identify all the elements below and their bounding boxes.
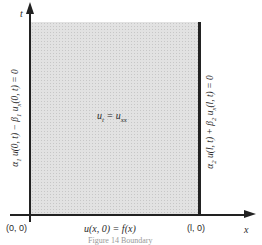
initial-condition-label: u(x, 0) = f(x) bbox=[84, 223, 136, 234]
right-boundary-condition-label: α2 u(l, t) + β2 ux(l, t) = 0 bbox=[205, 75, 217, 168]
t-axis bbox=[29, 8, 31, 222]
t-axis-label: t bbox=[20, 8, 23, 19]
right-boundary-line bbox=[198, 22, 201, 215]
x-axis-label: x bbox=[244, 224, 248, 235]
right-corner-label: (l, 0) bbox=[187, 223, 205, 233]
left-boundary-condition-label: α1 u(0, t) − β1 ux(0, t) = 0 bbox=[10, 69, 22, 167]
t-axis-arrow-icon bbox=[26, 2, 34, 14]
origin-label: (0, 0) bbox=[6, 223, 27, 233]
x-axis-arrow-icon bbox=[244, 210, 256, 218]
pde-label: ut = uxx bbox=[97, 110, 127, 124]
x-axis bbox=[10, 214, 248, 216]
figure-caption: Figure 14 Boundary bbox=[88, 236, 152, 245]
